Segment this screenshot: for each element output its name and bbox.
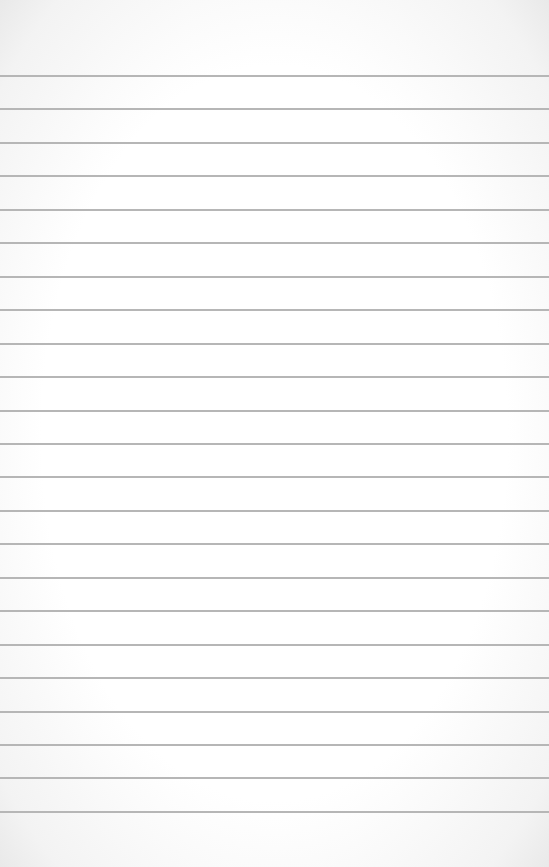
- ruled-line: [0, 510, 549, 512]
- ruled-line: [0, 142, 549, 144]
- ruled-line: [0, 108, 549, 110]
- ruled-line: [0, 309, 549, 311]
- ruled-line: [0, 75, 549, 77]
- ruled-line: [0, 276, 549, 278]
- ruled-line: [0, 242, 549, 244]
- ruled-line: [0, 577, 549, 579]
- ruled-line: [0, 410, 549, 412]
- ruled-line: [0, 677, 549, 679]
- ruled-line: [0, 543, 549, 545]
- ruled-line: [0, 610, 549, 612]
- ruled-line: [0, 209, 549, 211]
- ruled-line: [0, 777, 549, 779]
- lined-paper-sheet: [0, 0, 549, 867]
- ruled-line: [0, 175, 549, 177]
- ruled-line: [0, 343, 549, 345]
- ruled-line: [0, 711, 549, 713]
- ruled-line: [0, 476, 549, 478]
- ruled-line: [0, 811, 549, 813]
- ruled-line: [0, 644, 549, 646]
- ruled-line: [0, 744, 549, 746]
- ruled-line: [0, 443, 549, 445]
- ruled-line: [0, 376, 549, 378]
